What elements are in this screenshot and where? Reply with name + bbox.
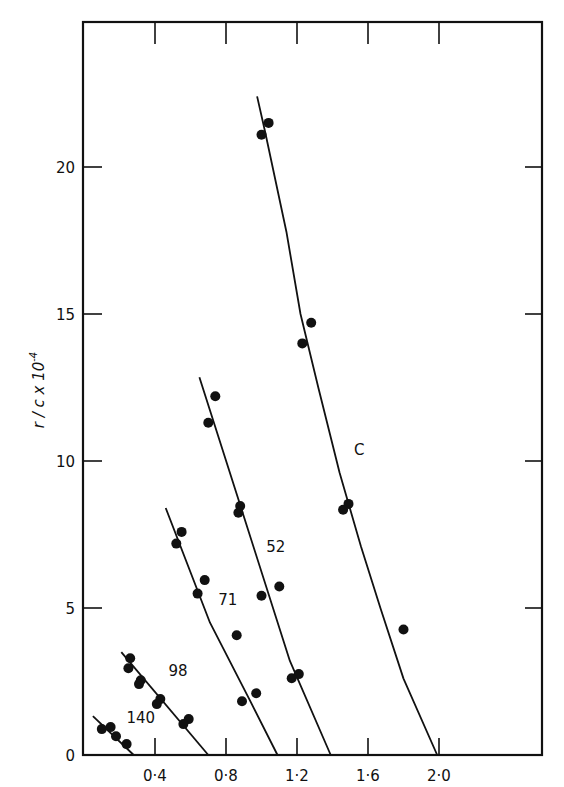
data-point-98 — [152, 699, 162, 709]
data-point-98 — [178, 719, 188, 729]
data-point-c — [264, 118, 274, 128]
data-point-140 — [111, 731, 121, 741]
data-point-52 — [257, 591, 267, 601]
y-axis-label-exponent: -4 — [28, 352, 39, 362]
data-point-98 — [125, 653, 135, 663]
fit-line-c — [257, 96, 437, 755]
axis-ticks — [83, 22, 542, 755]
series-label-c: C — [354, 441, 364, 459]
data-point-71 — [237, 696, 247, 706]
chart-container: 0·40·81·21·62·005101520 140987152C r / c… — [0, 0, 564, 787]
data-point-98 — [134, 679, 144, 689]
data-point-c — [338, 505, 348, 515]
data-point-c — [257, 130, 267, 140]
scatter-plot: 0·40·81·21·62·005101520 140987152C r / c… — [0, 0, 564, 787]
data-point-140 — [122, 739, 132, 749]
svg-text:r / c x 10-4: r / c x 10-4 — [28, 352, 48, 429]
data-point-71 — [177, 527, 187, 537]
data-point-c — [297, 338, 307, 348]
data-point-71 — [232, 630, 242, 640]
y-tick-label: 15 — [56, 306, 75, 324]
data-point-140 — [106, 722, 116, 732]
y-axis-label-main: r / c x 10 — [30, 362, 48, 429]
series-label-140: 140 — [126, 709, 155, 727]
data-point-71 — [200, 575, 210, 585]
plot-frame — [83, 22, 542, 755]
data-point-98 — [123, 663, 133, 673]
fit-line-98 — [121, 652, 208, 755]
y-tick-label: 5 — [65, 600, 75, 618]
x-tick-label: 2·0 — [427, 767, 451, 785]
data-points — [97, 118, 409, 749]
y-tick-label: 20 — [56, 159, 75, 177]
data-point-c — [306, 318, 316, 328]
x-tick-label: 0·8 — [214, 767, 238, 785]
x-tick-label: 1·2 — [285, 767, 309, 785]
y-axis-label: r / c x 10-4 — [28, 352, 48, 429]
fit-line-52 — [199, 377, 330, 755]
y-tick-label: 0 — [65, 747, 75, 765]
series-label-98: 98 — [169, 662, 188, 680]
data-point-71 — [251, 688, 261, 698]
series-labels: 140987152C — [126, 441, 364, 727]
x-tick-label: 0·4 — [143, 767, 167, 785]
data-point-52 — [233, 508, 243, 518]
data-point-71 — [193, 589, 203, 599]
data-point-52 — [210, 391, 220, 401]
data-point-c — [399, 625, 409, 635]
fit-line-71 — [166, 508, 278, 755]
x-tick-label: 1·6 — [356, 767, 380, 785]
data-point-52 — [287, 673, 297, 683]
data-point-71 — [171, 539, 181, 549]
y-tick-label: 10 — [56, 453, 75, 471]
plot-border — [83, 22, 542, 755]
data-point-140 — [97, 724, 107, 734]
fit-lines — [93, 96, 437, 755]
series-label-71: 71 — [218, 591, 237, 609]
data-point-52 — [203, 418, 213, 428]
series-label-52: 52 — [266, 538, 285, 556]
data-point-52 — [274, 582, 284, 592]
